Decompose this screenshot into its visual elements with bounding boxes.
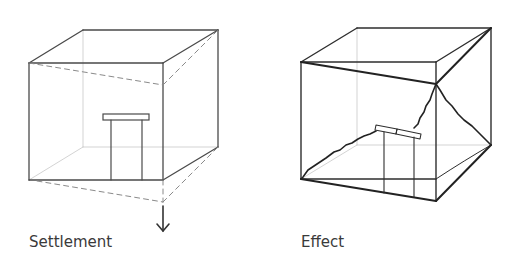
settled-outline — [29, 30, 218, 202]
settlement-cube — [29, 30, 218, 231]
settlement-label: Settlement — [29, 233, 112, 251]
effect-label: Effect — [301, 233, 344, 251]
distorted-edges — [301, 28, 491, 201]
solid-edges — [29, 30, 218, 180]
broken-door — [375, 125, 421, 197]
hidden-edges — [29, 30, 218, 180]
diagram-canvas — [0, 0, 520, 267]
effect-cube — [301, 28, 491, 201]
down-arrow-icon — [157, 206, 169, 231]
